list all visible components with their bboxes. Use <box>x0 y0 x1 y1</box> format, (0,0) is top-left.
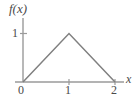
y-axis-label: f(x) <box>9 2 27 15</box>
triangular-function-graph: f(x) x 1 0 1 2 <box>0 0 138 102</box>
y-tick-label-1: 1 <box>12 27 18 39</box>
x-tick-label-2: 2 <box>111 84 117 96</box>
x-axis-label: x <box>126 73 131 85</box>
x-tick-label-1: 1 <box>65 84 71 96</box>
function-curve <box>23 34 115 83</box>
x-tick-label-0: 0 <box>18 84 24 96</box>
